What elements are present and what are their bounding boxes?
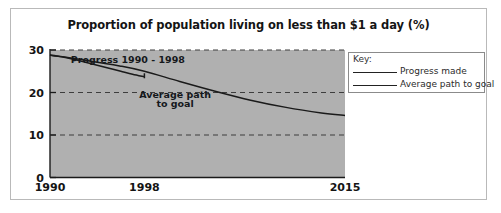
legend-title: Key: xyxy=(353,54,372,64)
plot-background xyxy=(50,50,345,177)
annotation-text: to goal xyxy=(156,98,193,109)
x-tick-label: 1990 xyxy=(35,181,66,194)
x-tick-label: 1998 xyxy=(129,181,160,194)
y-tick-label: 30 xyxy=(29,44,45,57)
chart-figure: Proportion of population living on less … xyxy=(0,0,501,213)
legend-item-label: Average path to goal xyxy=(400,79,494,89)
legend-line-swatch xyxy=(353,72,397,73)
legend-item-progress-made: Progress made xyxy=(353,66,482,79)
legend-item-label: Progress made xyxy=(400,66,467,76)
x-tick-label: 2015 xyxy=(330,181,361,194)
legend-item-average-path-to-goal: Average path to goal xyxy=(353,79,482,92)
legend-line-swatch xyxy=(353,85,397,86)
x-axis-tick-labels: 199019982015 xyxy=(35,181,361,194)
chart-legend: Key: Progress made Average path to goal xyxy=(348,52,485,93)
y-tick-label: 10 xyxy=(29,129,45,142)
chart-plot-area: 0102030 199019982015 Progress 1990 - 199… xyxy=(0,0,501,213)
y-tick-label: 20 xyxy=(29,87,45,100)
annotation-text: Progress 1990 - 1998 xyxy=(71,54,186,65)
y-axis-tick-labels: 0102030 xyxy=(29,44,45,185)
